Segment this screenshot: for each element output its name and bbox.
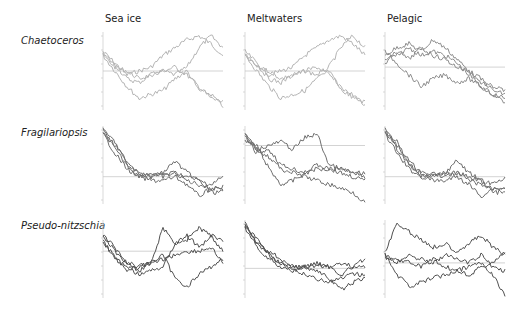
column-header-pelagic: Pelagic — [387, 13, 422, 24]
panel-fragilariopsis-meltwaters — [245, 126, 365, 204]
panel-fragilariopsis-sea-ice — [103, 126, 223, 204]
column-header-meltwaters: Meltwaters — [247, 13, 302, 24]
panel-pseudo-nitzschia-sea-ice — [103, 220, 223, 298]
row-label-fragilariopsis: Fragilariopsis — [21, 127, 88, 138]
trajectory-line — [245, 140, 365, 186]
trajectory-line — [103, 227, 223, 268]
trajectory-line — [103, 128, 223, 190]
trajectory-line — [103, 54, 223, 108]
panel-pseudo-nitzschia-meltwaters — [245, 220, 365, 298]
row-label-pseudo-nitzschia: Pseudo-nitzschia — [21, 220, 105, 231]
panel-chaetoceros-pelagic — [385, 32, 505, 110]
trajectory-line — [245, 226, 365, 290]
trajectory-line — [245, 54, 365, 106]
trajectory-line — [103, 133, 223, 194]
panel-fragilariopsis-pelagic — [385, 126, 505, 204]
row-label-chaetoceros: Chaetoceros — [21, 35, 84, 46]
panel-chaetoceros-meltwaters — [245, 32, 365, 110]
panel-pseudo-nitzschia-pelagic — [385, 220, 505, 298]
trajectory-line — [385, 258, 505, 297]
trajectory-line — [103, 242, 223, 287]
trajectory-line — [385, 223, 505, 255]
trajectory-line — [245, 133, 365, 202]
column-header-sea-ice: Sea ice — [105, 13, 141, 24]
trajectory-line — [103, 52, 223, 102]
trajectory-line — [385, 128, 505, 190]
panel-chaetoceros-sea-ice — [103, 32, 223, 110]
